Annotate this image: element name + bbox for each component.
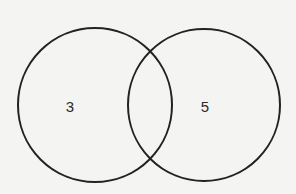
left-set-circle bbox=[18, 28, 172, 182]
venn-diagram: 3 5 bbox=[0, 0, 296, 194]
left-only-region-value: 3 bbox=[66, 99, 74, 114]
right-only-region-value: 5 bbox=[201, 99, 209, 114]
venn-circles bbox=[0, 0, 296, 194]
